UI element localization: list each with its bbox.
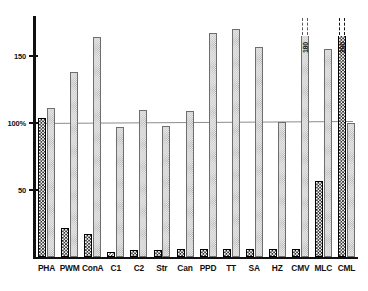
axis-break-mark: [302, 18, 303, 35]
bar-group-pwm: [58, 16, 81, 257]
x-axis-label-c1: C1: [104, 263, 127, 273]
bar-cml-checkered: [338, 36, 346, 257]
plot-area: 180200: [35, 16, 358, 257]
bar-sa-checkered: [246, 249, 254, 257]
bar-group-cmv: 180: [289, 16, 312, 257]
bar-group-tt: [220, 16, 243, 257]
y-tick-label-150: 150: [2, 52, 26, 61]
bar-pha-dotted: [47, 108, 55, 257]
y-tick-label-100: 100%: [2, 119, 26, 128]
bar-cmv-dotted: [301, 36, 309, 257]
bar-group-pha: [35, 16, 58, 257]
axis-break-mark: [339, 18, 340, 35]
bar-str-checkered: [154, 250, 162, 257]
x-axis-label-pwm: PWM: [58, 263, 81, 273]
bar-c2-dotted: [139, 110, 147, 257]
x-axis: [33, 257, 358, 259]
x-axis-label-hz: HZ: [266, 263, 289, 273]
x-axis-label-str: Str: [150, 263, 173, 273]
x-axis-label-sa: SA: [243, 263, 266, 273]
bar-group-ppd: [197, 16, 220, 257]
y-tick-label-50: 50: [2, 186, 26, 195]
bar-group-str: [150, 16, 173, 257]
bar-ppd-checkered: [200, 249, 208, 257]
bar-group-c2: [127, 16, 150, 257]
bar-group-cona: [81, 16, 104, 257]
bar-pwm-dotted: [70, 72, 78, 257]
bar-can-dotted: [186, 111, 194, 257]
bar-hz-dotted: [278, 122, 286, 257]
axis-break-mark: [307, 18, 308, 35]
x-axis-label-cml: CML: [335, 263, 358, 273]
bar-ppd-dotted: [209, 33, 217, 257]
bar-cona-checkered: [84, 234, 92, 257]
x-axis-label-mlc: MLC: [312, 263, 335, 273]
bar-tt-dotted: [232, 29, 240, 257]
x-axis-label-c2: C2: [127, 263, 150, 273]
bar-sa-dotted: [255, 47, 263, 257]
bar-tt-checkered: [223, 249, 231, 257]
x-axis-label-cmv: CMV: [289, 263, 312, 273]
bar-group-cml: 200: [335, 16, 358, 257]
x-axis-label-pha: PHA: [35, 263, 58, 273]
bar-group-sa: [243, 16, 266, 257]
bar-group-mlc: [312, 16, 335, 257]
overflow-value-label: 180: [302, 40, 309, 53]
bar-chart: 150100%50 180200 PHAPWMConAC1C2StrCanPPD…: [0, 0, 368, 291]
x-axis-label-can: Can: [173, 263, 196, 273]
bar-mlc-dotted: [324, 49, 332, 257]
bar-c1-checkered: [107, 252, 115, 257]
bar-can-checkered: [177, 249, 185, 257]
overflow-value-label: 200: [339, 40, 346, 53]
bar-cml-dotted: [347, 123, 355, 257]
bar-group-can: [173, 16, 196, 257]
x-axis-label-tt: TT: [220, 263, 243, 273]
axis-break-mark: [344, 18, 345, 35]
bar-mlc-checkered: [315, 181, 323, 257]
bar-cmv-checkered: [292, 249, 300, 257]
bar-pha-checkered: [38, 118, 46, 257]
bar-pwm-checkered: [61, 228, 69, 257]
bar-hz-checkered: [269, 249, 277, 257]
bar-group-c1: [104, 16, 127, 257]
x-axis-label-ppd: PPD: [197, 263, 220, 273]
bar-cona-dotted: [93, 37, 101, 257]
bar-c1-dotted: [116, 127, 124, 257]
bar-str-dotted: [162, 126, 170, 257]
x-axis-label-cona: ConA: [81, 263, 104, 273]
bar-group-hz: [266, 16, 289, 257]
bar-c2-checkered: [130, 250, 138, 257]
